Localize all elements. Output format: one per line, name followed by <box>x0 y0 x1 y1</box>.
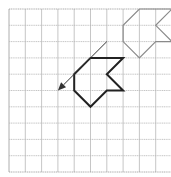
translated-shape <box>123 9 171 58</box>
original-shape <box>74 58 123 107</box>
square-grid <box>9 9 171 172</box>
arrow-shaft <box>64 42 107 85</box>
translation-diagram <box>0 0 171 177</box>
translation-arrow <box>58 42 107 91</box>
